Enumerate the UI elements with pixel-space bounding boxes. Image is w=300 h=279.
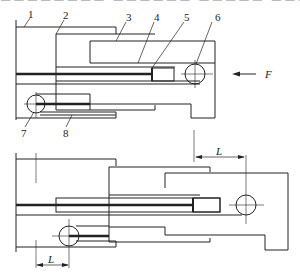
label-part-7: 7 xyxy=(21,127,27,139)
label-part-3: 3 xyxy=(126,11,132,23)
part-2-middle-member xyxy=(56,34,155,110)
label-part-5: 5 xyxy=(184,11,190,23)
dimension-label-top: L xyxy=(215,145,222,157)
label-part-8: 8 xyxy=(63,127,69,139)
force-label: F xyxy=(264,68,272,80)
dimension-label-bottom: L xyxy=(47,253,54,265)
part-5-slider-block xyxy=(152,68,174,81)
mechanism-diagram: 1 2 3 4 5 6 7 8 F L L xyxy=(0,0,300,279)
label-part-1: 1 xyxy=(28,8,34,20)
label-part-2: 2 xyxy=(63,9,69,21)
bottom-view xyxy=(16,130,288,268)
part-3-carriage xyxy=(56,41,215,118)
label-part-6: 6 xyxy=(215,11,221,23)
top-view xyxy=(16,18,256,127)
label-part-4: 4 xyxy=(154,11,160,23)
